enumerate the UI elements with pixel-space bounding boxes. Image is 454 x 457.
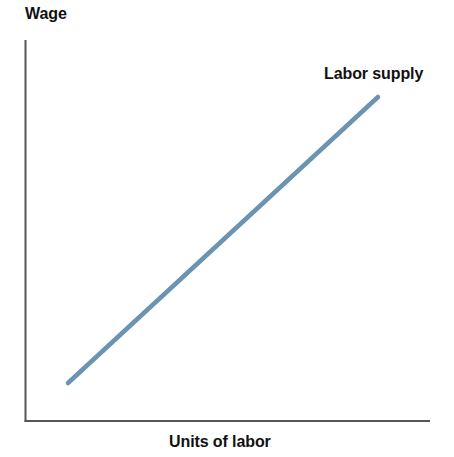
plot-area <box>0 0 454 457</box>
labor-supply-line <box>68 97 378 383</box>
labor-supply-chart: Wage Units of labor Labor supply <box>0 0 454 457</box>
